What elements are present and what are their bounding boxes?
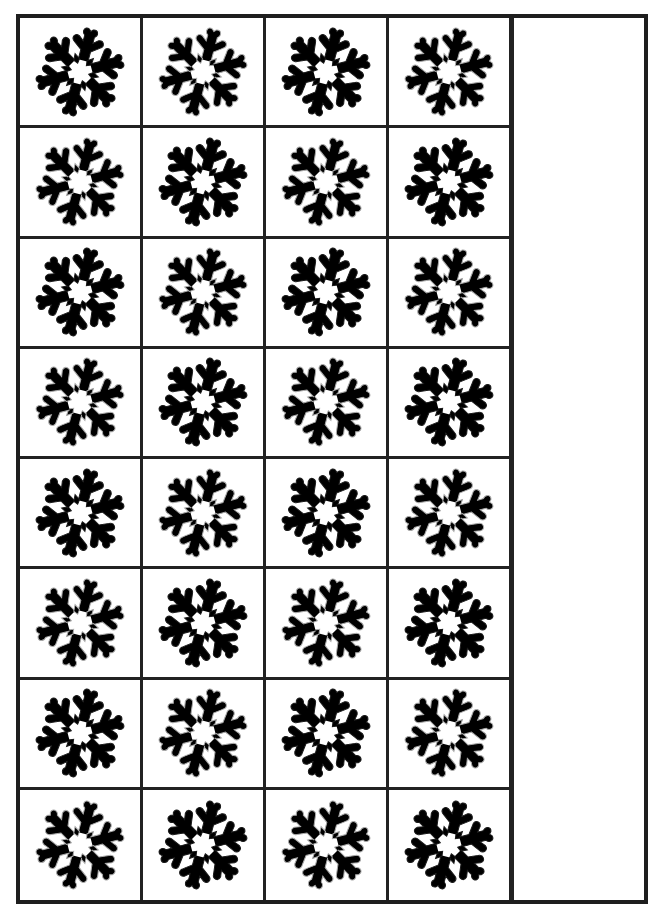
snowflake-icon [151,245,255,339]
snowflake-icon [397,576,501,670]
snowflake-icon [274,798,378,892]
grid-cell-r4-c3 [266,349,389,459]
grid-cell-r7-c1 [20,680,143,790]
snowflake-icon [274,686,378,780]
snowflake-icon [151,135,255,229]
snowflake-icon [151,355,255,449]
grid-cell-r8-c3 [266,790,389,900]
snowflake-icon [151,466,255,560]
snowflake-icon [28,466,132,560]
snowflake-icon [397,25,501,119]
grid-cell-r3-c1 [20,239,143,349]
snowflake-icon [274,466,378,560]
answer-column [512,18,644,900]
snowflake-icon [274,245,378,339]
grid-cell-r7-c3 [266,680,389,790]
grid-cell-r4-c4 [389,349,512,459]
grid-cell-r2-c2 [143,128,266,238]
snowflake-grid [20,18,512,900]
snowflake-icon [151,686,255,780]
grid-cell-r7-c2 [143,680,266,790]
snowflake-icon [397,135,501,229]
grid-cell-r1-c2 [143,18,266,128]
snowflake-icon [28,686,132,780]
snowflake-icon [151,798,255,892]
grid-cell-r5-c3 [266,459,389,569]
grid-cell-r3-c4 [389,239,512,349]
grid-cell-r6-c2 [143,569,266,679]
grid-cell-r1-c3 [266,18,389,128]
snowflake-icon [274,355,378,449]
grid-cell-r8-c1 [20,790,143,900]
grid-cell-r6-c3 [266,569,389,679]
snowflake-icon [28,798,132,892]
snowflake-icon [28,245,132,339]
snowflake-icon [397,245,501,339]
snowflake-icon [151,25,255,119]
snowflake-icon [274,576,378,670]
snowflake-icon [28,576,132,670]
grid-cell-r8-c4 [389,790,512,900]
grid-cell-r7-c4 [389,680,512,790]
grid-cell-r6-c4 [389,569,512,679]
grid-cell-r5-c1 [20,459,143,569]
grid-cell-r2-c3 [266,128,389,238]
snowflake-icon [397,798,501,892]
grid-cell-r6-c1 [20,569,143,679]
grid-cell-r3-c3 [266,239,389,349]
snowflake-icon [28,355,132,449]
grid-cell-r5-c4 [389,459,512,569]
snowflake-icon [397,686,501,780]
grid-cell-r3-c2 [143,239,266,349]
grid-cell-r4-c2 [143,349,266,459]
snowflake-icon [274,135,378,229]
grid-cell-r2-c1 [20,128,143,238]
snowflake-icon [28,25,132,119]
snowflake-icon [28,135,132,229]
worksheet [16,14,648,904]
grid-cell-r2-c4 [389,128,512,238]
grid-cell-r1-c4 [389,18,512,128]
snowflake-icon [397,466,501,560]
grid-cell-r1-c1 [20,18,143,128]
snowflake-icon [151,576,255,670]
grid-cell-r4-c1 [20,349,143,459]
snowflake-icon [397,355,501,449]
snowflake-icon [274,25,378,119]
grid-cell-r8-c2 [143,790,266,900]
grid-cell-r5-c2 [143,459,266,569]
